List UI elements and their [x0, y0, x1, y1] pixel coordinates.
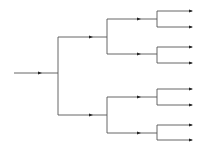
arrow-head-icon: [189, 9, 193, 12]
arrow-head-icon: [137, 52, 141, 55]
arrow-head-icon: [189, 138, 193, 141]
arrow-head-icon: [89, 113, 93, 116]
arrow-head-icon: [189, 45, 193, 48]
arrow-head-icon: [189, 25, 193, 28]
arrow-head-icon: [137, 95, 141, 98]
arrow-head-icon: [137, 131, 141, 134]
tree-arrows: [38, 9, 193, 141]
arrow-head-icon: [189, 103, 193, 106]
arrow-head-icon: [38, 71, 42, 74]
tree-diagram: [0, 0, 203, 149]
arrow-head-icon: [137, 17, 141, 20]
arrow-head-icon: [189, 87, 193, 90]
arrow-head-icon: [189, 123, 193, 126]
arrow-head-icon: [189, 61, 193, 64]
tree-lines: [14, 11, 192, 140]
arrow-head-icon: [89, 35, 93, 38]
